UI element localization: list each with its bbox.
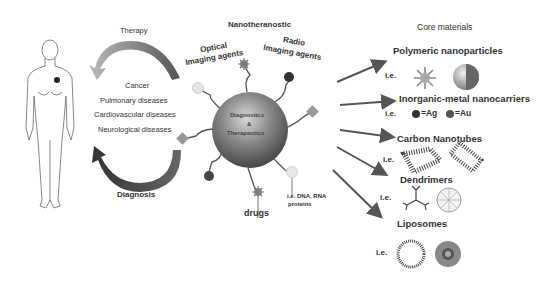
human-body-outline-icon [26,40,74,208]
nanotheranostic-title: Nanotheranostic [228,20,291,29]
liposome-filled-icon [435,241,461,267]
diagnosis-cycle-arrow-icon [92,146,181,192]
dark-ligand-icon [204,171,214,181]
nanotubes-ie: i.e. [383,155,394,164]
disease-neurological: Neurological diseases [98,125,171,134]
category-carbon-nanotubes: Carbon Nanotubes [397,133,482,144]
diagnosis-label: Diagnosis [117,190,155,199]
radio-agent-icon [284,72,294,82]
polymeric-sphere-shade [466,64,479,90]
gold-label: =Au [455,108,471,118]
dendrimer-sphere-icon [437,188,461,212]
polymeric-micelle-icon [414,67,436,89]
disease-cancer: Cancer [125,81,149,90]
diamond-ligand-icon [176,132,189,145]
silver-label: =Ag [421,108,437,118]
nanotube-icon [404,143,481,172]
polymeric-ie: i.e. [385,71,396,80]
drugs-label: drugs [244,208,269,218]
liposomes-ie: i.e. [376,248,387,257]
sphere-label-line1: Diagnostics [230,112,264,118]
core-materials-title: Core materials [417,22,472,32]
silver-particle-icon [412,110,420,118]
diamond-ligand-icon [306,105,319,118]
drug-star-icon [238,58,250,70]
drug-star-icon [252,186,264,198]
category-polymeric: Polymeric nanoparticles [393,45,503,56]
disease-pulmonary: Pulmonary diseases [100,96,168,105]
biomolecule-ligand-icon [287,167,298,178]
tumor-marker-icon [54,77,60,83]
biomolecule-label-line1: i.e. DNA, RNA [287,193,326,199]
therapy-label: Therapy [120,26,148,35]
therapy-cycle-arrow-icon [89,41,180,80]
biomolecule-label-line2: proteins [288,201,312,207]
optical-agent-icon [193,83,204,94]
category-dendrimers: Dendrimers [400,174,453,185]
disease-cardiovascular: Cardiovascular diseases [94,110,176,119]
category-inorganic: Inorganic-metal nanocarriers [399,93,530,104]
sphere-label-line3: Therapeutics [227,130,264,136]
gold-particle-icon [446,110,454,118]
dendrimers-ie: i.e. [380,193,391,202]
liposome-icon [398,241,424,267]
category-liposomes: Liposomes [397,218,447,229]
dendrimer-icon [403,186,429,210]
inorganic-ie: i.e. [385,109,396,118]
sphere-label-line2: & [247,121,251,127]
